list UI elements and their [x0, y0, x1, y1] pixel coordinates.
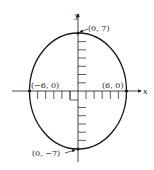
- ellipse-diagram: y x (0, 7) (−6, 0) (6, 0) (0, −7): [0, 0, 154, 170]
- diagram-canvas: y x (0, 7) (−6, 0) (6, 0) (0, −7): [0, 0, 154, 170]
- x-axis-label: x: [143, 87, 148, 96]
- bottom-label-arrow: [65, 150, 75, 153]
- top-label-arrow: [80, 29, 88, 32]
- y-axis-label: y: [74, 11, 80, 20]
- label-bottom-point: (0, −7): [32, 149, 60, 158]
- point-bottom: [76, 147, 79, 150]
- point-top: [76, 31, 79, 34]
- label-left-point: (−6, 0): [31, 81, 59, 90]
- label-right-point: (6, 0): [102, 81, 124, 90]
- label-top-point: (0, 7): [88, 24, 110, 33]
- point-right: [125, 89, 128, 92]
